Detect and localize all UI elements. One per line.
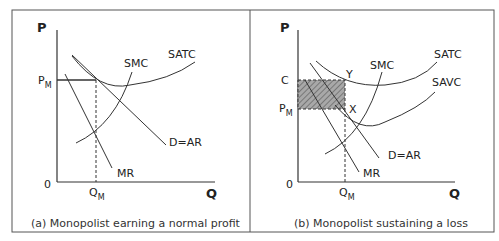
demand-curve [72, 55, 166, 145]
price-label: PM [38, 74, 52, 90]
x-axis-label: Q [206, 186, 217, 201]
price-label: PM [279, 102, 293, 118]
point-x-label: X [349, 103, 357, 116]
caption: (a) Monopolist earning a normal profit [31, 217, 241, 230]
demand-curve [310, 63, 379, 158]
quantity-label: QM [89, 186, 105, 202]
satc-label: SATC [434, 48, 462, 61]
smc-label: SMC [370, 59, 394, 72]
point-y-label: Y [345, 68, 353, 81]
caption: (b) Monopolist sustaining a loss [294, 217, 468, 230]
savc-label: SAVC [432, 76, 462, 89]
mr-label: MR [117, 167, 134, 180]
demand-label: D=AR [388, 149, 421, 162]
smc-label: SMC [124, 57, 148, 70]
satc-label: SATC [168, 48, 196, 61]
origin-label: 0 [44, 178, 51, 191]
cost-label: C [281, 74, 289, 87]
loss-area [298, 80, 345, 109]
origin-label: 0 [286, 178, 293, 191]
figure-frame [12, 10, 494, 232]
quantity-label: QM [339, 186, 355, 202]
panel-b: P Q 0 C PM QM SATC SAVC SMC D=AR MR Y X … [279, 20, 468, 230]
panel-a: P Q 0 PM QM SATC SMC D=AR MR (a) Monopol… [31, 20, 241, 230]
mr-label: MR [363, 167, 380, 180]
y-axis-label: P [37, 20, 47, 35]
demand-label: D=AR [169, 136, 202, 149]
monopoly-diagrams: P Q 0 PM QM SATC SMC D=AR MR (a) Monopol… [0, 0, 499, 241]
y-axis-label: P [280, 20, 290, 35]
x-axis-label: Q [449, 186, 460, 201]
